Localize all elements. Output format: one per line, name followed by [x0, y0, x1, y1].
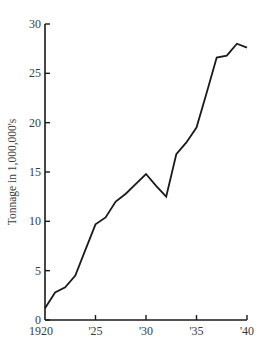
y-axis: 051015202530	[29, 17, 50, 327]
y-tick-label: 25	[29, 66, 41, 80]
y-tick-label: 10	[29, 214, 41, 228]
x-tick-label: '40	[240, 324, 254, 338]
data-series	[45, 44, 247, 309]
y-axis-title: Tonnage in 1,000,000's	[6, 118, 19, 225]
x-axis: 1920'25'30'35'40	[29, 315, 254, 338]
x-tick-label: '30	[139, 324, 153, 338]
y-tick-label: 5	[35, 264, 41, 278]
x-tick-label: 1920	[29, 324, 53, 338]
x-tick-label: '35	[189, 324, 203, 338]
y-tick-label: 30	[29, 17, 41, 31]
line-chart: 051015202530 1920'25'30'35'40 Tonnage in…	[0, 0, 276, 349]
y-tick-label: 15	[29, 165, 41, 179]
x-tick-label: '25	[88, 324, 102, 338]
y-tick-label: 20	[29, 116, 41, 130]
series-line	[45, 44, 247, 309]
